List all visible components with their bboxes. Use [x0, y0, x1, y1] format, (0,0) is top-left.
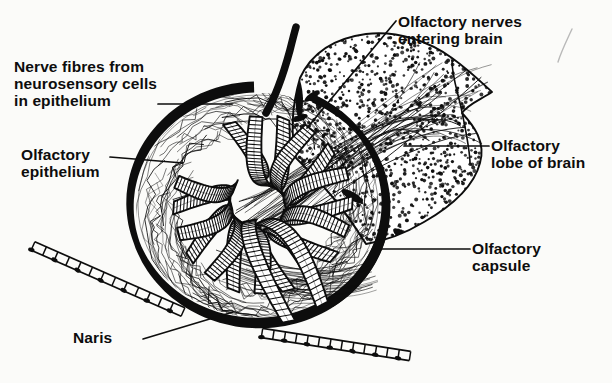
label-olfactory-epithelium: Olfactoryepithelium	[21, 146, 100, 180]
label-olfactory-nerves-entering-brain: Olfactory nervesentering brain	[398, 13, 522, 47]
label-nerve-fibres: Nerve fibres fromneurosensory cellsin ep…	[14, 58, 157, 109]
label-olfactory-capsule: Olfactorycapsule	[472, 240, 541, 274]
pencil-mark	[558, 29, 572, 62]
label-naris: Naris	[73, 329, 112, 346]
label-olfactory-lobe-of-brain: Olfactorylobe of brain	[491, 137, 585, 171]
olfactory-organ-figure: Nerve fibres fromneurosensory cellsin ep…	[0, 0, 612, 383]
